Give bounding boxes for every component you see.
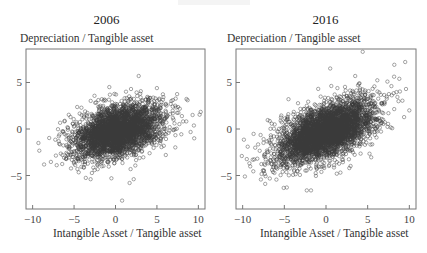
data-point (390, 84, 393, 87)
data-point (285, 170, 288, 173)
data-point (368, 152, 371, 155)
data-point (263, 163, 266, 166)
data-point (305, 189, 308, 192)
data-point (108, 85, 111, 88)
data-point (76, 167, 79, 170)
data-point (333, 93, 336, 96)
data-point (173, 122, 176, 125)
data-point (314, 104, 317, 107)
data-point (164, 137, 167, 140)
data-point (329, 67, 332, 70)
x-tick-label: −10 (234, 213, 252, 225)
data-point (107, 98, 110, 101)
data-point (181, 120, 184, 123)
data-point (124, 90, 127, 93)
x-tick-label: −5 (68, 213, 80, 225)
data-point (367, 89, 370, 92)
data-point (193, 137, 196, 140)
data-point (327, 96, 330, 99)
data-point (142, 156, 145, 159)
data-point (404, 60, 407, 63)
x-tick-label: 0 (323, 213, 329, 225)
data-point (377, 97, 380, 100)
data-point (401, 99, 404, 102)
scatter-plot-area: −10−5051050−5 (0, 0, 213, 253)
data-point (287, 174, 290, 177)
data-point (49, 160, 52, 163)
data-point (252, 170, 255, 173)
data-point (354, 74, 357, 77)
data-point (242, 138, 245, 141)
data-point (84, 176, 87, 179)
data-point (275, 178, 278, 181)
x-tick-label: 5 (365, 213, 371, 225)
data-point (359, 152, 362, 155)
data-point (90, 171, 93, 174)
data-point (280, 114, 283, 117)
data-point (353, 153, 356, 156)
data-point (272, 147, 275, 150)
data-point (58, 121, 61, 124)
data-point (262, 141, 265, 144)
data-point (336, 86, 339, 89)
data-point (180, 114, 183, 117)
data-point (178, 122, 181, 125)
data-point (54, 138, 57, 141)
data-point (313, 103, 316, 106)
x-tick-label: 5 (154, 213, 160, 225)
data-point (317, 87, 320, 90)
data-point (155, 86, 158, 89)
data-point (307, 100, 310, 103)
data-point (254, 146, 257, 149)
x-tick-label: −5 (278, 213, 290, 225)
data-point (371, 87, 374, 90)
data-point (80, 106, 83, 109)
y-tick-label: −5 (10, 170, 22, 182)
data-point (93, 94, 96, 97)
data-point (319, 95, 322, 98)
data-point (292, 118, 295, 121)
data-point (259, 178, 262, 181)
y-tick-label: 0 (227, 123, 233, 135)
data-point (120, 199, 123, 202)
data-point (333, 159, 336, 162)
data-point (393, 107, 396, 110)
data-point (56, 128, 59, 131)
x-tick-label: 0 (113, 213, 119, 225)
data-point (189, 130, 192, 133)
data-point (260, 172, 263, 175)
data-point (264, 175, 267, 178)
y-tick-label: 0 (17, 123, 23, 135)
data-point (38, 149, 41, 152)
data-point (129, 167, 132, 170)
data-point (76, 105, 79, 108)
data-point (309, 189, 312, 192)
data-point (287, 98, 290, 101)
data-point (268, 177, 271, 180)
data-point (72, 117, 75, 120)
data-point (392, 75, 395, 78)
data-point (168, 129, 171, 132)
data-point (138, 156, 141, 159)
data-point (380, 111, 383, 114)
data-point (164, 153, 167, 156)
data-point (393, 63, 396, 66)
data-point (167, 131, 170, 134)
y-tick-label: 5 (17, 76, 23, 88)
data-point (330, 84, 333, 87)
data-point (110, 177, 113, 180)
data-point (335, 172, 338, 175)
data-point (256, 157, 259, 160)
data-point (402, 115, 405, 118)
data-point (296, 102, 299, 105)
x-tick-label: −10 (24, 213, 42, 225)
data-point (339, 171, 342, 174)
data-point (58, 143, 61, 146)
data-point (134, 164, 137, 167)
data-point (168, 125, 171, 128)
data-point (279, 173, 282, 176)
data-point (89, 99, 92, 102)
data-point (347, 158, 350, 161)
data-point (248, 162, 251, 165)
data-point (48, 136, 51, 139)
